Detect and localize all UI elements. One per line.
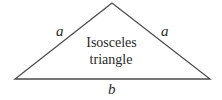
title-line-1: Isosceles <box>86 35 137 50</box>
title-line-2: triangle <box>90 52 133 67</box>
triangle-diagram: a a b Isosceles triangle <box>0 0 222 100</box>
base-label: b <box>108 81 116 97</box>
left-side-label: a <box>56 23 64 39</box>
diagram-canvas: a a b Isosceles triangle <box>0 0 222 100</box>
right-side-label: a <box>161 23 169 39</box>
